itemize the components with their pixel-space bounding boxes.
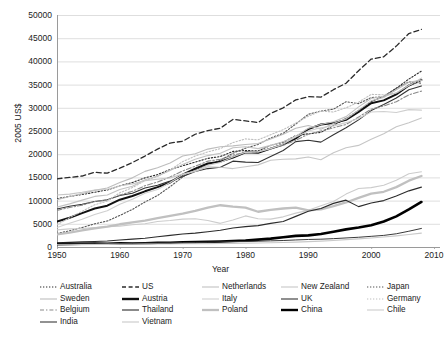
- legend-item-vietnam[interactable]: Vietnam: [122, 316, 202, 328]
- x-tick-label: 1950: [37, 250, 77, 260]
- y-tick-label: 30000: [12, 104, 52, 113]
- legend-swatch-icon: [40, 282, 57, 291]
- x-tick-label: 2000: [351, 250, 391, 260]
- series-line-sweden: [57, 80, 421, 200]
- legend-item-belgium[interactable]: Belgium: [40, 304, 122, 316]
- legend-swatch-icon: [122, 282, 139, 291]
- x-tick-label: 2010: [414, 250, 448, 260]
- legend-item-sweden[interactable]: Sweden: [40, 293, 122, 305]
- series-line-new-zealand: [57, 118, 421, 195]
- legend-label: Japan: [387, 282, 409, 291]
- chart-canvas: [57, 15, 441, 249]
- series-line-italy: [57, 110, 421, 228]
- y-tick-label: 5000: [12, 220, 52, 229]
- legend-label: China: [301, 305, 322, 314]
- x-tick-label: 1970: [163, 250, 203, 260]
- y-tick-label: 40000: [12, 57, 52, 66]
- legend-label: Australia: [60, 282, 92, 291]
- series-line-australia: [57, 71, 421, 199]
- legend-label: Poland: [222, 305, 248, 314]
- legend-swatch-icon: [122, 294, 139, 303]
- series-line-india: [57, 228, 421, 244]
- legend-swatch-icon: [281, 282, 298, 291]
- legend-label: Germany: [387, 294, 421, 303]
- legend-item-italy[interactable]: Italy: [202, 293, 281, 305]
- legend-label: India: [60, 317, 78, 326]
- y-tick-label: 50000: [12, 11, 52, 20]
- legend-swatch-icon: [281, 305, 298, 314]
- y-tick-label: 25000: [12, 127, 52, 136]
- y-tick-label: 35000: [12, 81, 52, 90]
- legend-swatch-icon: [367, 282, 384, 291]
- legend-swatch-icon: [202, 294, 219, 303]
- legend-item-poland[interactable]: Poland: [202, 304, 281, 316]
- y-tick-label: 10000: [12, 197, 52, 206]
- x-tick-label: 1960: [100, 250, 140, 260]
- legend-label: Vietnam: [142, 317, 172, 326]
- legend-item-germany[interactable]: Germany: [367, 293, 441, 305]
- legend-column: JapanGermanyChile: [367, 281, 441, 335]
- legend-item-chile[interactable]: Chile: [367, 304, 441, 316]
- legend-label: Netherlands: [222, 282, 266, 291]
- legend-item-uk[interactable]: UK: [281, 293, 367, 305]
- legend-column: NetherlandsItalyPoland: [202, 281, 281, 335]
- legend-label: UK: [301, 294, 312, 303]
- legend-item-new-zealand[interactable]: New Zealand: [281, 281, 367, 293]
- legend-column: USAustriaThailandVietnam: [122, 281, 202, 335]
- legend-label: Italy: [222, 294, 237, 303]
- legend-label: Thailand: [142, 305, 173, 314]
- y-tick-label: 20000: [12, 150, 52, 159]
- legend-item-us[interactable]: US: [122, 281, 202, 293]
- plot-area: [57, 15, 434, 247]
- legend-swatch-icon: [367, 294, 384, 303]
- legend-column: AustraliaSwedenBelgiumIndia: [40, 281, 122, 335]
- legend-label: Chile: [387, 305, 406, 314]
- legend-item-australia[interactable]: Australia: [40, 281, 122, 293]
- y-tick-label: 15000: [12, 173, 52, 182]
- legend-swatch-icon: [40, 317, 57, 326]
- legend-item-thailand[interactable]: Thailand: [122, 304, 202, 316]
- legend-label: US: [142, 282, 153, 291]
- legend-label: New Zealand: [301, 282, 349, 291]
- legend-item-austria[interactable]: Austria: [122, 293, 202, 305]
- legend-item-japan[interactable]: Japan: [367, 281, 441, 293]
- legend-swatch-icon: [122, 305, 139, 314]
- legend-item-netherlands[interactable]: Netherlands: [202, 281, 281, 293]
- legend-swatch-icon: [202, 282, 219, 291]
- legend-swatch-icon: [367, 305, 384, 314]
- legend-swatch-icon: [40, 305, 57, 314]
- legend-swatch-icon: [202, 305, 219, 314]
- legend-item-china[interactable]: China: [281, 304, 367, 316]
- legend-swatch-icon: [281, 294, 298, 303]
- chart-legend: AustraliaSwedenBelgiumIndiaUSAustriaThai…: [40, 281, 441, 335]
- legend-label: Austria: [142, 294, 167, 303]
- x-tick-label: 1980: [226, 250, 266, 260]
- x-tick-label: 1990: [288, 250, 328, 260]
- y-tick-label: 45000: [12, 34, 52, 43]
- x-axis-title: Year: [0, 264, 441, 274]
- legend-label: Belgium: [60, 305, 90, 314]
- legend-label: Sweden: [60, 294, 90, 303]
- legend-swatch-icon: [40, 294, 57, 303]
- legend-swatch-icon: [122, 317, 139, 326]
- legend-item-india[interactable]: India: [40, 316, 122, 328]
- legend-column: New ZealandUKChina: [281, 281, 367, 335]
